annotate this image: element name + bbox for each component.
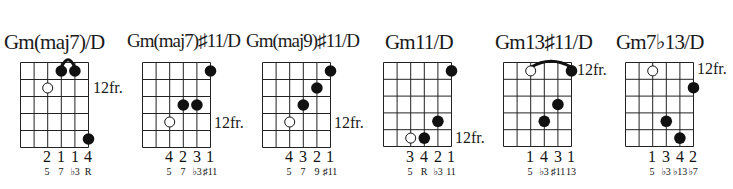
- fretboard-grid: [142, 62, 211, 148]
- finger-string-5: 3: [193, 148, 201, 166]
- fret-position-label: 12fr.: [697, 60, 727, 78]
- chord-title: Gm(maj7)/D: [4, 30, 104, 55]
- finger-dot: [191, 99, 203, 111]
- open-finger-dot: [43, 83, 53, 93]
- finger-string-6: 4: [84, 148, 92, 166]
- finger-dot: [674, 132, 686, 144]
- finger-string-3: 4: [285, 148, 293, 166]
- finger-string-5: 4: [676, 148, 684, 166]
- open-finger-dot: [285, 117, 295, 127]
- degree-string-6: 13: [566, 166, 576, 178]
- finger-string-5: 1: [71, 148, 79, 166]
- finger-dot: [446, 65, 458, 77]
- finger-dot: [552, 99, 564, 111]
- finger-dot: [178, 99, 190, 111]
- open-finger-dot: [526, 66, 536, 76]
- finger-string-4: 2: [179, 148, 187, 166]
- degree-string-5: ♯11: [551, 166, 566, 178]
- open-finger-dot: [406, 133, 416, 143]
- finger-dot: [83, 133, 95, 145]
- finger-dot: [539, 116, 551, 128]
- degree-string-3: 5: [528, 166, 533, 178]
- fretboard-grid: [625, 62, 694, 147]
- degree-string-6: 11: [446, 166, 456, 178]
- chord-title: Gm13♯11/D: [495, 30, 592, 55]
- degree-string-6: ♯11: [203, 166, 218, 178]
- finger-string-5: 2: [434, 148, 442, 166]
- finger-dot: [325, 65, 337, 77]
- degree-string-6: ♭7: [688, 166, 698, 178]
- finger-string-4: 4: [540, 148, 548, 166]
- finger-string-4: 4: [420, 148, 428, 166]
- degree-string-5: ♭3: [192, 166, 202, 178]
- finger-dot: [419, 132, 431, 144]
- chord-title: Gm(maj7)♯11/D: [127, 30, 240, 52]
- degree-string-4: ♭3: [661, 166, 671, 178]
- chord-diagram-gm13-sharp11-over-d: Gm13♯11/D 12fr. 1 4 3 1 5 ♭3 ♯11 13: [483, 0, 608, 189]
- fretboard-grid: [503, 62, 572, 147]
- chord-diagram-gm-maj9-sharp11-over-d: Gm(maj9)♯11/D 12fr. 4 3 2 1 5 7 9 ♯11: [242, 0, 372, 189]
- finger-string-5: 2: [313, 148, 321, 166]
- degree-string-3: 5: [650, 166, 655, 178]
- fret-position-label: 12fr.: [577, 61, 607, 79]
- finger-dot: [205, 65, 217, 77]
- finger-string-3: 4: [165, 148, 173, 166]
- finger-string-6: 1: [326, 148, 334, 166]
- finger-dot: [311, 82, 323, 94]
- fret-position-label: 12fr.: [214, 114, 244, 132]
- finger-string-6: 1: [206, 148, 214, 166]
- finger-string-6: 1: [447, 148, 455, 166]
- degree-string-6: ♯11: [323, 166, 338, 178]
- finger-dot: [566, 65, 578, 77]
- finger-dot: [661, 116, 673, 128]
- degree-string-3: 5: [408, 166, 413, 178]
- degree-string-4: R: [421, 166, 428, 178]
- chord-diagram-gm11-over-d: Gm11/D 12fr. 3 4 2 1 5 R ♭3 11: [363, 0, 488, 189]
- degree-string-3: 5: [45, 166, 50, 178]
- degree-string-4: 7: [301, 166, 306, 178]
- chord-diagram-gm-maj7-over-d: Gm(maj7)/D 12fr. 2 1 1 4 5 7 ♭3 R: [0, 0, 125, 189]
- finger-string-3: 1: [526, 148, 534, 166]
- degree-string-6: R: [85, 166, 92, 178]
- degree-string-3: 5: [287, 166, 292, 178]
- open-finger-dot: [648, 66, 658, 76]
- chord-diagram-gm-maj7-sharp11-over-d: Gm(maj7)♯11/D 12fr. 4 2 3 1 5 7 ♭3 ♯11: [122, 0, 247, 189]
- fret-position-label: 12fr.: [93, 79, 123, 97]
- finger-string-3: 2: [43, 148, 51, 166]
- degree-string-4: 7: [59, 166, 64, 178]
- fretboard-grid: [262, 62, 331, 148]
- fret-position-label: 12fr.: [334, 114, 364, 132]
- chord-title: Gm7♭13/D: [616, 30, 704, 55]
- degree-string-3: 5: [167, 166, 172, 178]
- chord-title: Gm(maj9)♯11/D: [246, 30, 359, 52]
- finger-string-6: 1: [567, 148, 575, 166]
- finger-string-6: 2: [689, 148, 697, 166]
- finger-dot: [432, 116, 444, 128]
- fretboard-grid: [20, 62, 89, 148]
- fretboard-grid: [383, 62, 452, 147]
- finger-string-5: 3: [554, 148, 562, 166]
- fret-position-label: 12fr.: [455, 129, 485, 147]
- chord-title: Gm11/D: [385, 30, 453, 55]
- finger-string-3: 1: [648, 148, 656, 166]
- finger-dot: [69, 65, 81, 77]
- degree-string-5: ♭3: [70, 166, 80, 178]
- finger-dot: [298, 99, 310, 111]
- open-finger-dot: [165, 117, 175, 127]
- finger-string-4: 3: [662, 148, 670, 166]
- finger-string-4: 3: [299, 148, 307, 166]
- degree-string-4: 7: [181, 166, 186, 178]
- finger-dot: [56, 65, 68, 77]
- finger-dot: [688, 82, 700, 94]
- chord-diagram-gm7-flat13-over-d: Gm7♭13/D 12fr. 1 3 4 2 5 ♭3 ♭13 ♭7: [605, 0, 733, 189]
- degree-string-5: ♭13: [673, 166, 688, 178]
- finger-string-3: 3: [406, 148, 414, 166]
- degree-string-5: 9: [315, 166, 320, 178]
- finger-string-4: 1: [57, 148, 65, 166]
- degree-string-5: ♭3: [433, 166, 443, 178]
- degree-string-4: ♭3: [539, 166, 549, 178]
